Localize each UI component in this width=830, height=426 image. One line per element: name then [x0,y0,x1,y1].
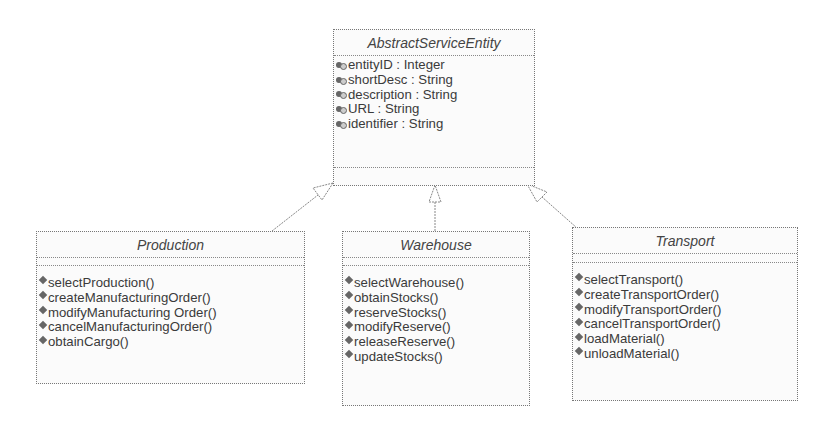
operation-row: releaseReserve() [345,335,529,350]
operation-icon [575,347,583,355]
operation-icon [345,321,353,329]
attributes-compartment [37,258,304,266]
attribute-row: entityID : Integer [336,58,534,73]
operation-icon [39,306,47,314]
operation-row: selectProduction() [39,276,304,291]
operation-row: cancelTransportOrder() [575,317,797,332]
operation-row: selectTransport() [575,273,797,288]
class-abstract-service-entity[interactable]: AbstractServiceEntity entityID : Integer… [333,29,535,186]
operation-icon [575,318,583,326]
operation-row: selectWarehouse() [345,276,529,291]
attribute-row: URL : String [336,102,534,117]
operations-compartment: selectProduction() createManufacturingOr… [37,266,304,350]
uml-class-diagram: AbstractServiceEntity entityID : Integer… [0,0,830,426]
operation-row: modifyManufacturing Order() [39,306,304,321]
operation-row: createTransportOrder() [575,288,797,303]
attribute-icon [336,76,347,85]
operations-compartment: selectTransport() createTransportOrder()… [573,263,797,362]
operation-row: modifyReserve() [345,320,529,335]
operation-row: unloadMaterial() [575,347,797,362]
class-warehouse[interactable]: Warehouse selectWarehouse() obtainStocks… [342,231,530,406]
class-production[interactable]: Production selectProduction() createManu… [36,231,305,384]
operation-icon [39,291,47,299]
operation-row: reserveStocks() [345,306,529,321]
operation-icon [575,288,583,296]
operation-icon [345,350,353,358]
operation-icon [345,306,353,314]
operation-row: createManufacturingOrder() [39,291,304,306]
operation-row: modifyTransportOrder() [575,303,797,318]
attribute-icon [336,105,347,114]
operation-icon [39,335,47,343]
attribute-row: identifier : String [336,117,534,132]
attribute-icon [336,120,347,129]
operation-row: cancelManufacturingOrder() [39,320,304,335]
attribute-icon [336,61,347,70]
operations-compartment: selectWarehouse() obtainStocks() reserve… [343,266,529,365]
attributes-compartment [343,258,529,266]
operations-compartment [334,168,534,178]
generalization-arrow-production [272,183,333,231]
attributes-compartment [573,254,797,263]
attribute-row: shortDesc : String [336,73,534,88]
operation-icon [345,335,353,343]
class-name: Production [37,232,304,258]
operation-icon [575,303,583,311]
operation-row: obtainCargo() [39,335,304,350]
attribute-icon [336,90,347,99]
operation-icon [345,276,353,284]
generalization-arrow-warehouse [429,185,441,231]
class-name: AbstractServiceEntity [334,30,534,56]
operation-icon [345,291,353,299]
class-transport[interactable]: Transport selectTransport() createTransp… [572,227,798,401]
operation-row: loadMaterial() [575,332,797,347]
attributes-compartment: entityID : Integer shortDesc : String de… [334,56,534,168]
operation-icon [575,273,583,281]
generalization-arrow-transport [527,184,577,228]
operation-row: obtainStocks() [345,291,529,306]
operation-icon [575,332,583,340]
attribute-row: description : String [336,88,534,103]
class-name: Warehouse [343,232,529,258]
operation-row: updateStocks() [345,350,529,365]
operation-icon [39,276,47,284]
class-name: Transport [573,228,797,254]
operation-icon [39,321,47,329]
